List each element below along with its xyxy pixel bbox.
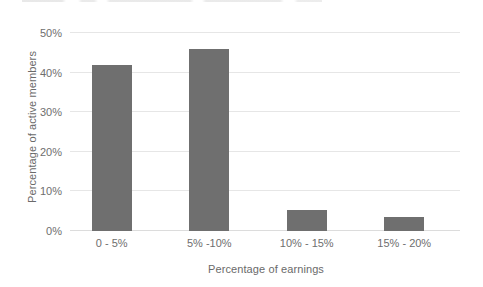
y-tick-label: 20% <box>22 146 62 158</box>
x-tick-label: 10% - 15% <box>258 236 356 250</box>
bar[interactable] <box>92 65 132 231</box>
scan-artifact-strip <box>22 0 322 2</box>
bar[interactable] <box>189 49 229 231</box>
x-axis-tick-labels: 0 - 5%5% -10%10% - 15%15% - 20% <box>70 236 460 252</box>
x-tick-label: 0 - 5% <box>63 236 161 250</box>
y-tick-label: 0% <box>22 225 62 237</box>
y-axis-tick-labels: 0%10%20%30%40%50% <box>18 33 62 231</box>
x-tick-label: 5% -10% <box>161 236 259 250</box>
plot-area <box>70 33 460 231</box>
x-tick-label: 15% - 20% <box>356 236 454 250</box>
bar-chart-figure: Percentage of active members 0%10%20%30%… <box>0 0 483 287</box>
x-axis-title: Percentage of earnings <box>70 263 462 275</box>
bar[interactable] <box>384 217 424 231</box>
y-tick-label: 50% <box>22 27 62 39</box>
y-tick-label: 40% <box>22 67 62 79</box>
y-tick-label: 30% <box>22 106 62 118</box>
bar[interactable] <box>287 210 327 231</box>
bars-group <box>70 33 460 231</box>
y-tick-label: 10% <box>22 185 62 197</box>
